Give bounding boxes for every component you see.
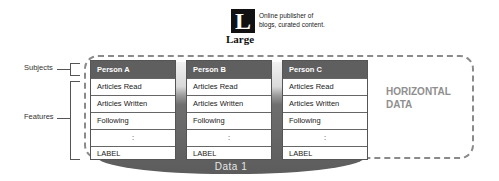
dataset-label: Data 1	[96, 161, 366, 172]
feature-row: Articles Read	[91, 78, 175, 95]
label-row: LABEL	[283, 146, 367, 161]
subject-card-person-a: Person A Articles Read Articles Written …	[90, 60, 176, 160]
logo-caption-line-2: blogs, curated content.	[259, 21, 339, 30]
logo-caption: Online publisher of blogs, curated conte…	[259, 12, 339, 29]
card-header: Person C	[283, 61, 367, 78]
feature-row: Articles Written	[187, 95, 271, 112]
features-bracket-icon	[70, 81, 80, 160]
feature-row: Articles Written	[91, 95, 175, 112]
ellipsis-row: :	[283, 129, 367, 146]
subject-card-person-b: Person B Articles Read Articles Written …	[186, 60, 272, 160]
logo-icon: L	[231, 9, 255, 33]
horizontal-data-label-line-1: HORIZONTAL	[386, 85, 451, 98]
label-row: LABEL	[91, 146, 175, 161]
feature-row: Articles Read	[187, 78, 271, 95]
subjects-label: Subjects	[24, 63, 53, 72]
ellipsis-row: :	[187, 129, 271, 146]
label-row: LABEL	[187, 146, 271, 161]
subject-card-person-c: Person C Articles Read Articles Written …	[282, 60, 368, 160]
feature-row: Following	[283, 112, 367, 129]
subjects-bracket-icon	[70, 63, 80, 76]
card-header: Person B	[187, 61, 271, 78]
card-header: Person A	[91, 61, 175, 78]
horizontal-data-label: HORIZONTAL DATA	[386, 85, 451, 111]
logo-wordmark: Large	[226, 33, 254, 45]
subjects-connector	[57, 69, 70, 70]
feature-row: Following	[91, 112, 175, 129]
feature-row: Articles Read	[283, 78, 367, 95]
feature-row: Articles Written	[283, 95, 367, 112]
features-connector	[57, 118, 70, 119]
horizontal-data-label-line-2: DATA	[386, 98, 451, 111]
feature-row: Following	[187, 112, 271, 129]
ellipsis-row: :	[91, 129, 175, 146]
logo-caption-line-1: Online publisher of	[259, 12, 339, 21]
features-label: Features	[24, 112, 54, 121]
